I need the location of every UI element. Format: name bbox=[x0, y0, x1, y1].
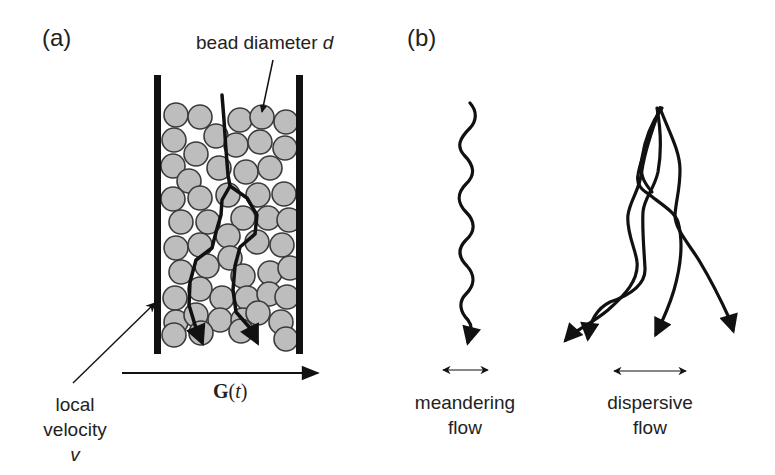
local-velocity-pointer bbox=[73, 303, 155, 383]
beads bbox=[161, 103, 302, 351]
local-velocity-label: local velocity v bbox=[30, 392, 120, 467]
bead-diameter-label: bead diameter d bbox=[196, 30, 333, 55]
column-wall-left bbox=[154, 75, 161, 354]
gradient-label: G(t) bbox=[213, 380, 247, 403]
bead-diameter-text: bead diameter bbox=[196, 32, 323, 53]
bead-diameter-symbol: d bbox=[323, 32, 334, 53]
local-velocity-line2: velocity bbox=[30, 417, 120, 442]
panel-a-label: (a) bbox=[42, 24, 71, 52]
column-wall-right bbox=[296, 75, 303, 354]
local-velocity-symbol: v bbox=[30, 442, 120, 467]
meandering-flow-label: meandering flow bbox=[400, 390, 530, 440]
meandering-flow-line2: flow bbox=[400, 415, 530, 440]
dispersive-flow-line1: dispersive bbox=[590, 390, 710, 415]
bead-diameter-pointer bbox=[262, 60, 273, 112]
packed-column bbox=[154, 75, 303, 354]
gradient-symbol: G bbox=[213, 380, 229, 402]
meandering-flow-line1: meandering bbox=[400, 390, 530, 415]
dispersive-flow-lines bbox=[566, 108, 733, 340]
dispersive-flow-label: dispersive flow bbox=[590, 390, 710, 440]
meandering-flow-line bbox=[459, 103, 475, 342]
local-velocity-line1: local bbox=[30, 392, 120, 417]
panel-b-label: (b) bbox=[407, 24, 436, 52]
gradient-close-paren: ) bbox=[241, 380, 248, 402]
dispersive-flow-line2: flow bbox=[590, 415, 710, 440]
